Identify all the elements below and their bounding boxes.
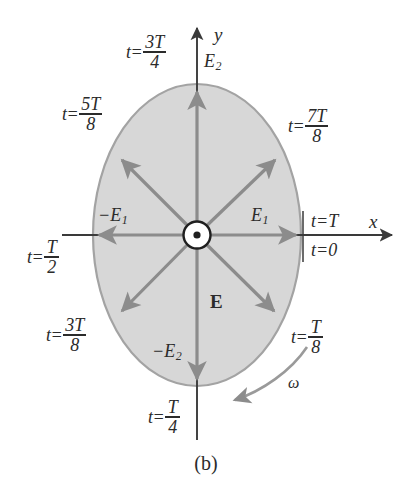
field-vector-label-E: E	[210, 292, 223, 311]
fraction-T-over-2: T 2	[44, 238, 59, 277]
y-axis-label: y	[214, 25, 222, 44]
time-label-3T-over-8: t= 3T 8	[46, 316, 86, 355]
time-label-T-lhs: t=	[311, 211, 328, 231]
fraction-5T-over-8: 5T 8	[79, 95, 102, 134]
amplitude-sub-plus-E2: 2	[216, 59, 222, 73]
amplitude-sub-minus-E2: 2	[176, 349, 182, 363]
out-of-page-vector-dot	[193, 231, 200, 238]
fraction-3T-over-8-numerator: 3T	[63, 316, 86, 334]
fraction-T-over-2-numerator: T	[45, 238, 59, 256]
fraction-T-over-4-numerator: T	[166, 398, 180, 416]
amplitude-label-plus-E2: E2	[204, 52, 222, 72]
fraction-T-over-2-denominator: 2	[45, 258, 58, 277]
time-label-T: t=T	[311, 212, 338, 230]
fraction-5T-over-8-numerator: 5T	[79, 95, 102, 113]
time-label-T-over-4: t= T 4	[148, 398, 180, 437]
time-label-T-over-8: t= T 8	[291, 318, 323, 357]
time-label-T-over-2-lhs: t=	[27, 248, 43, 266]
time-label-T-over-8-lhs: t=	[291, 328, 307, 346]
amplitude-sym-minus-E2: −E	[152, 341, 175, 361]
fraction-3T-over-4-denominator: 4	[148, 53, 161, 72]
fraction-3T-over-4: 3T 4	[143, 33, 166, 72]
amplitude-label-minus-E1: −E1	[98, 206, 128, 226]
fraction-7T-over-8-numerator: 7T	[305, 107, 328, 125]
amplitude-label-minus-E2: −E2	[152, 342, 182, 362]
time-label-T-value: T	[328, 211, 338, 231]
x-axis-label: x	[369, 212, 377, 231]
time-label-3T-over-8-lhs: t=	[46, 326, 62, 344]
fraction-T-over-8-numerator: T	[309, 318, 323, 336]
fraction-5T-over-8-denominator: 8	[84, 115, 97, 134]
amplitude-label-plus-E1: E1	[251, 206, 269, 226]
omega-label: ω	[288, 375, 299, 391]
fraction-7T-over-8: 7T 8	[305, 107, 328, 146]
polarization-ellipse-figure: y x E2 −E2 E1 −E1 E ω t= 3T 4 t= 5T	[0, 0, 412, 490]
time-label-7T-over-8: t= 7T 8	[288, 107, 328, 146]
fraction-T-over-4-denominator: 4	[166, 418, 179, 437]
fraction-T-over-8-denominator: 8	[309, 338, 322, 357]
time-label-0-value: 0	[328, 240, 337, 260]
fraction-3T-over-8: 3T 8	[63, 316, 86, 355]
time-label-5T-over-8: t= 5T 8	[62, 95, 102, 134]
time-label-0-lhs: t=	[311, 240, 328, 260]
fraction-T-over-8: T 8	[308, 318, 323, 357]
amplitude-sub-plus-E1: 1	[263, 213, 269, 227]
diagram-canvas	[0, 0, 412, 490]
time-label-T-over-4-lhs: t=	[148, 408, 164, 426]
fraction-T-over-4: T 4	[165, 398, 180, 437]
time-label-7T-over-8-lhs: t=	[288, 117, 304, 135]
time-label-3T-over-4: t= 3T 4	[126, 33, 166, 72]
fraction-3T-over-4-numerator: 3T	[143, 33, 166, 51]
fraction-3T-over-8-denominator: 8	[68, 336, 81, 355]
amplitude-sub-minus-E1: 1	[122, 213, 128, 227]
amplitude-sym-plus-E1: E	[251, 205, 262, 225]
time-label-T-over-2: t= T 2	[27, 238, 59, 277]
figure-caption: (b)	[0, 452, 412, 475]
amplitude-sym-plus-E2: E	[204, 51, 215, 71]
amplitude-sym-minus-E1: −E	[98, 205, 121, 225]
time-label-3T-over-4-lhs: t=	[126, 43, 142, 61]
time-label-5T-over-8-lhs: t=	[62, 105, 78, 123]
time-label-0: t=0	[311, 241, 337, 259]
fraction-7T-over-8-denominator: 8	[310, 127, 323, 146]
